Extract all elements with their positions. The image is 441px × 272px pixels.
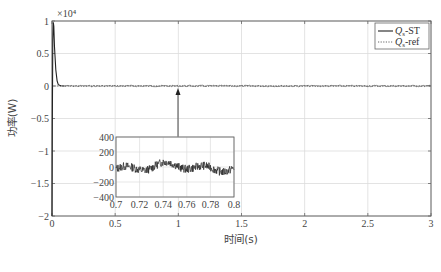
inset-x-tick-label: 0.8 <box>228 199 241 210</box>
inset-x-tick-label: 0.74 <box>154 199 172 210</box>
chart: 10.50−0.5−1−1.5−2 00.511.522.53 ×10⁴ 时间(… <box>0 0 441 272</box>
x-tick-label: 1.5 <box>235 218 248 229</box>
x-axis-label: 时间(s) <box>224 233 258 245</box>
x-tick-label: 2.5 <box>362 218 375 229</box>
inset-arrow <box>176 88 181 137</box>
x-tick-label: 2 <box>302 218 307 229</box>
inset-y-tick-labels: 4002000−200−400 <box>93 132 114 203</box>
inset-y-tick-label: 200 <box>99 147 114 158</box>
y-tick-label: −1.5 <box>31 178 49 189</box>
inset-y-tick-label: 400 <box>99 132 114 143</box>
x-tick-label: 3 <box>429 218 434 229</box>
inset-x-tick-label: 0.78 <box>202 199 220 210</box>
legend: Qs-ST Qs-ref <box>375 23 429 49</box>
y-tick-label: −2 <box>38 211 49 222</box>
y-axis-label: 功率(W) <box>6 99 18 138</box>
x-tick-labels: 00.511.522.53 <box>50 218 434 229</box>
inset-x-tick-label: 0.72 <box>131 199 149 210</box>
y-tick-label: 0 <box>44 81 49 92</box>
x-tick-label: 0.5 <box>109 218 122 229</box>
inset-x-tick-labels: 0.70.720.740.760.780.8 <box>110 199 241 210</box>
y-tick-label: 1 <box>44 16 49 27</box>
inset-y-tick-label: 0 <box>109 162 114 173</box>
y-multiplier: ×10⁴ <box>57 8 77 19</box>
inset-y-tick-label: −200 <box>93 177 114 188</box>
inset-x-tick-label: 0.7 <box>110 199 123 210</box>
x-tick-label: 1 <box>176 218 181 229</box>
x-tick-label: 0 <box>50 218 55 229</box>
y-tick-labels: 10.50−0.5−1−1.5−2 <box>31 16 49 222</box>
y-tick-label: −0.5 <box>31 113 49 124</box>
series-qs-st <box>52 22 65 216</box>
inset-x-tick-label: 0.76 <box>178 199 196 210</box>
y-tick-label: 0.5 <box>37 48 50 59</box>
y-tick-label: −1 <box>38 146 49 157</box>
